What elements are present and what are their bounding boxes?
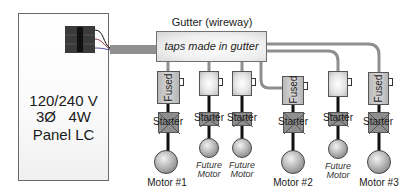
- starter-label-1: Starter: [148, 116, 188, 127]
- motor-3-icon: [367, 150, 391, 174]
- fused-label-6: Fused: [373, 69, 384, 109]
- motor-1-icon: [154, 150, 178, 174]
- disconnect-handle-icon: [389, 78, 393, 86]
- disconnect-handle-icon: [252, 78, 256, 86]
- motor-2-icon: [281, 150, 305, 174]
- disconnect-handle-icon: [219, 78, 223, 86]
- future-motor-5-icon: [328, 139, 348, 159]
- disconnect-handle-icon: [180, 78, 184, 86]
- starter-label-6: Starter: [358, 116, 398, 127]
- future-motor-3-icon: [232, 138, 252, 158]
- motor-label-1: Motor #1: [142, 177, 192, 188]
- disconnect-handle-icon: [304, 82, 308, 90]
- fused-label-1: Fused: [163, 68, 174, 108]
- disconnect-3: [232, 71, 252, 96]
- motor-label-2: Motor #2: [268, 177, 318, 188]
- starter-label-3: Starter: [222, 112, 262, 123]
- motor-label-3: Motor #3: [354, 177, 404, 188]
- future-motor-label-3: Future Motor: [222, 161, 262, 179]
- gutter-note: taps made in gutter: [156, 40, 267, 52]
- starter-label-5: Starter: [318, 112, 358, 123]
- disconnect-5: [328, 71, 348, 97]
- gutter-title: Gutter (wireway): [156, 16, 268, 28]
- starter-label-4: Starter: [273, 116, 313, 127]
- disconnect-handle-icon: [348, 78, 352, 86]
- fused-label-4: Fused: [288, 70, 299, 110]
- future-motor-2-icon: [199, 138, 219, 158]
- future-motor-label-5: Future Motor: [318, 162, 358, 180]
- disconnect-2: [199, 71, 219, 96]
